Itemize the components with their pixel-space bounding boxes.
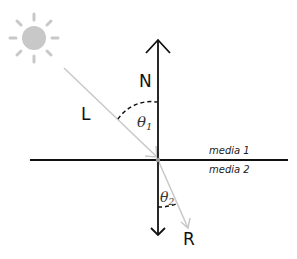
incident-label: L	[81, 104, 91, 124]
normal-label: N	[139, 71, 152, 91]
media-1-label: media 1	[209, 145, 250, 156]
refraction-diagram: N L R θ1 θ2 media 1 media 2	[0, 0, 297, 259]
reflected-label: R	[183, 229, 195, 249]
media-2-label: media 2	[209, 164, 250, 175]
normal-line	[146, 40, 170, 235]
sun-icon	[10, 14, 58, 62]
theta1-label: θ1	[137, 113, 152, 132]
incidence-point	[156, 158, 160, 162]
